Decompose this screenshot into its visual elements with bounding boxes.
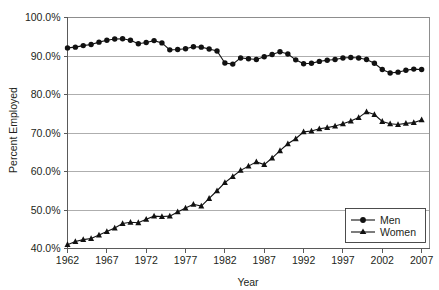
y-tick-label: 90.0% — [31, 50, 61, 62]
data-point-marker — [230, 173, 236, 179]
data-point-marker — [81, 43, 86, 48]
data-point-marker — [151, 213, 157, 219]
y-tick-label: 80.0% — [31, 88, 61, 100]
x-tick-label: 1967 — [95, 254, 119, 266]
y-tick-label: 50.0% — [31, 204, 61, 216]
data-point-marker — [73, 44, 78, 49]
data-point-marker — [151, 38, 156, 43]
data-point-marker — [120, 36, 125, 41]
data-point-marker — [128, 38, 133, 43]
data-point-marker — [159, 40, 164, 45]
data-point-marker — [88, 42, 93, 47]
data-point-marker — [380, 67, 385, 72]
x-axis-title: Year — [237, 276, 259, 288]
data-point-marker — [253, 159, 259, 165]
data-point-marker — [96, 39, 101, 44]
data-point-marker — [175, 47, 180, 52]
data-point-marker — [356, 114, 362, 120]
data-point-marker — [167, 47, 172, 52]
x-tick-label: 2007 — [410, 254, 434, 266]
legend-marker-men-circle-icon — [360, 217, 366, 223]
y-axis-ticks: 100.0%90.0%80.0%70.0%60.0%50.0%40.0% — [25, 11, 68, 254]
data-point-marker — [387, 70, 392, 75]
data-point-marker — [332, 57, 337, 62]
x-tick-label: 1997 — [331, 254, 355, 266]
x-axis-ticks: 1962196719721977198219871992199720022007 — [56, 249, 434, 266]
data-point-marker — [364, 108, 370, 114]
data-point-marker — [356, 55, 361, 60]
data-point-marker — [191, 44, 196, 49]
data-point-marker — [317, 59, 322, 64]
data-point-marker — [254, 57, 259, 62]
data-point-marker — [136, 41, 141, 46]
data-point-marker — [238, 167, 244, 173]
data-point-marker — [65, 45, 70, 50]
data-point-marker — [372, 61, 377, 66]
x-tick-label: 1962 — [56, 254, 80, 266]
data-point-marker — [206, 46, 211, 51]
data-point-marker — [214, 48, 219, 53]
y-axis-title: Percent Employed — [7, 87, 19, 173]
data-point-marker — [285, 140, 291, 146]
x-tick-label: 2002 — [371, 254, 395, 266]
data-point-marker — [112, 225, 118, 231]
data-point-marker — [238, 55, 243, 60]
data-point-marker — [309, 61, 314, 66]
data-point-marker — [246, 163, 252, 169]
data-point-marker — [411, 66, 416, 71]
x-tick-label: 1972 — [135, 254, 159, 266]
data-point-marker — [262, 54, 267, 59]
x-tick-label: 1987 — [253, 254, 277, 266]
data-point-marker — [325, 58, 330, 63]
data-point-marker — [277, 49, 282, 54]
data-point-marker — [230, 61, 235, 66]
data-point-marker — [127, 219, 133, 225]
legend-label-women: Women — [380, 226, 416, 238]
data-point-marker — [167, 213, 173, 219]
data-point-marker — [419, 67, 424, 72]
data-point-marker — [340, 55, 345, 60]
data-point-marker — [395, 69, 400, 74]
y-tick-label: 40.0% — [31, 242, 61, 254]
data-point-marker — [269, 52, 274, 57]
chart-legend: Men Women — [346, 209, 426, 243]
chart-container: 100.0%90.0%80.0%70.0%60.0%50.0%40.0% 196… — [0, 0, 439, 290]
y-tick-label: 100.0% — [25, 11, 61, 23]
data-point-marker — [419, 117, 425, 123]
data-point-marker — [183, 46, 188, 51]
data-point-marker — [301, 61, 306, 66]
data-point-marker — [190, 201, 196, 207]
data-point-marker — [104, 38, 109, 43]
x-tick-label: 1982 — [213, 254, 237, 266]
data-point-marker — [364, 57, 369, 62]
data-point-marker — [222, 179, 228, 185]
data-point-marker — [348, 55, 353, 60]
y-tick-label: 60.0% — [31, 165, 61, 177]
employment-rate-line-chart: 100.0%90.0%80.0%70.0%60.0%50.0%40.0% 196… — [0, 0, 439, 290]
legend-label-men: Men — [380, 214, 401, 226]
data-point-marker — [285, 51, 290, 56]
y-tick-label: 70.0% — [31, 127, 61, 139]
data-point-marker — [112, 36, 117, 41]
data-point-marker — [199, 44, 204, 49]
data-point-marker — [222, 60, 227, 65]
x-tick-label: 1977 — [174, 254, 198, 266]
data-point-marker — [144, 40, 149, 45]
x-tick-label: 1992 — [292, 254, 316, 266]
data-point-marker — [293, 57, 298, 62]
data-point-marker — [246, 56, 251, 61]
data-point-marker — [403, 68, 408, 73]
